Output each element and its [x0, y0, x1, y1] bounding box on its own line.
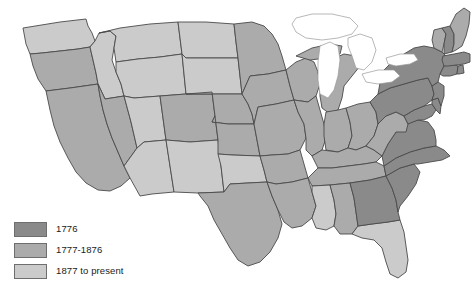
state-WY[interactable] — [116, 54, 186, 98]
legend-swatch-1877-present — [14, 264, 47, 279]
legend-item-1776: 1776 — [14, 219, 174, 239]
state-NM[interactable] — [166, 140, 224, 193]
legend-swatch-1776 — [14, 222, 47, 237]
state-FL[interactable] — [352, 220, 408, 278]
legend-label-1777-1876: 1777-1876 — [56, 245, 102, 255]
state-AR[interactable] — [260, 150, 308, 184]
state-TX[interactable] — [198, 182, 282, 266]
state-RI[interactable] — [457, 65, 464, 74]
legend-swatch-1777-1876 — [14, 243, 47, 258]
state-MA[interactable] — [442, 52, 470, 66]
state-SD[interactable] — [182, 54, 242, 94]
state-OR[interactable] — [30, 47, 98, 91]
legend-item-1777-1876: 1777-1876 — [14, 240, 174, 260]
lake-superior-shape — [292, 14, 358, 40]
legend-label-1776: 1776 — [56, 224, 78, 234]
legend-label-1877-present: 1877 to present — [56, 266, 124, 276]
legend-item-1877-present: 1877 to present — [14, 261, 174, 281]
map-legend: 1776 1777-1876 1877 to present — [14, 219, 174, 281]
state-ND[interactable] — [178, 22, 238, 58]
state-CO[interactable] — [160, 92, 218, 142]
